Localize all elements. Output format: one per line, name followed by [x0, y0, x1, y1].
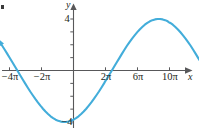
plot-canvas [0, 0, 199, 131]
x-tick-label: 10π [162, 72, 178, 83]
y-axis-arrowhead-icon [70, 4, 76, 11]
y-tick-label: −4 [61, 117, 72, 128]
x-axis-label: x [188, 72, 192, 82]
x-tick-label: 2π [101, 72, 112, 83]
sine-graph-figure: −4π −2π 2π 6π 10π 4 −4 x y [0, 0, 199, 131]
x-tick-label: 6π [133, 72, 144, 83]
y-tick-label: 4 [64, 14, 69, 25]
x-tick-label: −4π [2, 72, 18, 83]
y-axis-label: y [66, 0, 70, 10]
x-tick-label: −2π [34, 72, 50, 83]
